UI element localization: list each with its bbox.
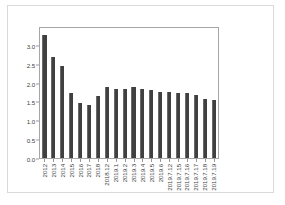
x-axis-tick-mark	[160, 159, 161, 162]
y-axis-tick-mark	[36, 140, 39, 141]
bar	[96, 96, 100, 158]
y-axis-tick-mark	[36, 159, 39, 160]
x-axis-tick: 2019.6	[156, 160, 165, 205]
x-axis-tick-label: 2019.7.19	[210, 164, 217, 191]
x-axis-tick: 2018	[93, 160, 102, 205]
y-axis-tick-label: 2.5	[27, 61, 35, 68]
y-axis-tick-mark	[36, 102, 39, 103]
x-axis-tick-label: 2013	[50, 164, 57, 177]
bar-slot	[156, 28, 165, 158]
bar	[51, 57, 55, 158]
bar	[140, 89, 144, 158]
bar	[158, 92, 162, 158]
bar	[69, 93, 73, 158]
x-axis-tick: 2019.5	[147, 160, 156, 205]
y-axis-tick-label: 0.5	[27, 137, 35, 144]
x-axis-tick: 2019.7.17	[191, 160, 200, 205]
chart-figure: 0.00.51.01.52.02.53.0 201220132014201520…	[0, 0, 285, 205]
y-axis-tick-label: 1.5	[27, 99, 35, 106]
bar-slot	[183, 28, 192, 158]
x-axis-tick-label: 2017	[85, 164, 92, 177]
x-axis-tick-label: 2019.7.17	[192, 164, 199, 191]
y-axis-tick-mark	[36, 64, 39, 65]
x-axis-tick-label: 2018.12	[103, 164, 110, 186]
bar-slot	[147, 28, 156, 158]
x-axis-tick-label: 2019.4	[139, 164, 146, 182]
x-axis-tick-label: 2019.7.15	[175, 164, 182, 191]
x-axis-tick: 2019.7.16	[183, 160, 192, 205]
bar-slot	[102, 28, 111, 158]
x-axis-tick: 2019.4	[138, 160, 147, 205]
x-axis-tick-mark	[89, 159, 90, 162]
bar-slot	[76, 28, 85, 158]
bar-slot	[40, 28, 49, 158]
bar	[78, 103, 82, 158]
x-axis-tick-label: 2019.1	[112, 164, 119, 182]
x-axis-tick-label: 2019.7.18	[201, 164, 208, 191]
y-axis-tick-label: 2.0	[27, 80, 35, 87]
bar-slot	[129, 28, 138, 158]
x-axis-tick-label: 2019.5	[148, 164, 155, 182]
bar	[212, 100, 216, 158]
bar	[123, 89, 127, 158]
bar	[105, 87, 109, 158]
bar	[60, 66, 64, 158]
bar-slot	[209, 28, 218, 158]
x-axis-tick-label: 2019.7.16	[183, 164, 190, 191]
x-axis-tick-mark	[142, 159, 143, 162]
x-axis-tick: 2018.12	[102, 160, 111, 205]
bar-slot	[120, 28, 129, 158]
bar-slot	[138, 28, 147, 158]
x-axis-tick-mark	[53, 159, 54, 162]
x-axis-tick-label: 2012	[41, 164, 48, 177]
x-axis-tick-mark	[71, 159, 72, 162]
bar-series	[40, 28, 218, 158]
x-axis-tick-mark	[151, 159, 152, 162]
y-axis-tick-label: 0.0	[27, 156, 35, 163]
x-axis-tick-label: 2019.6	[157, 164, 164, 182]
x-axis-tick-mark	[125, 159, 126, 162]
x-axis-tick-mark	[187, 159, 188, 162]
x-axis-tick: 2019.3	[129, 160, 138, 205]
bar-slot	[85, 28, 94, 158]
bar	[149, 90, 153, 158]
x-axis-tick: 2019.2	[120, 160, 129, 205]
bar	[194, 95, 198, 159]
x-axis-tick: 2013	[49, 160, 58, 205]
x-axis-tick: 2019.7.12	[165, 160, 174, 205]
x-axis-tick-label: 2016	[77, 164, 84, 177]
bar	[203, 99, 207, 158]
y-axis-tick-label: 1.0	[27, 118, 35, 125]
bar-slot	[67, 28, 76, 158]
bar	[42, 35, 46, 158]
y-axis-tick-mark	[36, 83, 39, 84]
bar-slot	[58, 28, 67, 158]
x-axis-tick-mark	[134, 159, 135, 162]
x-axis-tick: 2015	[67, 160, 76, 205]
bar	[176, 93, 180, 158]
x-axis-tick-label: 2019.2	[121, 164, 128, 182]
x-axis-tick: 2012	[40, 160, 49, 205]
y-axis-tick-mark	[36, 121, 39, 122]
x-axis-tick-label: 2018	[94, 164, 101, 177]
y-axis-tick-label: 3.0	[27, 42, 35, 49]
y-axis: 0.00.51.01.52.02.53.0	[0, 27, 39, 159]
x-axis-tick-mark	[44, 159, 45, 162]
x-axis-tick-label: 2015	[68, 164, 75, 177]
x-axis-tick-mark	[169, 159, 170, 162]
x-axis-tick-mark	[214, 159, 215, 162]
x-axis-tick: 2019.7.15	[174, 160, 183, 205]
bar-slot	[200, 28, 209, 158]
bar-slot	[93, 28, 102, 158]
x-axis-tick-mark	[178, 159, 179, 162]
bar	[185, 93, 189, 158]
bar-slot	[174, 28, 183, 158]
x-axis-tick-label: 2014	[59, 164, 66, 177]
x-axis-tick-mark	[196, 159, 197, 162]
y-axis-tick-mark	[36, 45, 39, 46]
bar-slot	[191, 28, 200, 158]
x-axis-tick-mark	[205, 159, 206, 162]
x-axis: 20122013201420152016201720182018.122019.…	[40, 160, 218, 205]
x-axis-tick-mark	[98, 159, 99, 162]
x-axis-tick: 2017	[85, 160, 94, 205]
